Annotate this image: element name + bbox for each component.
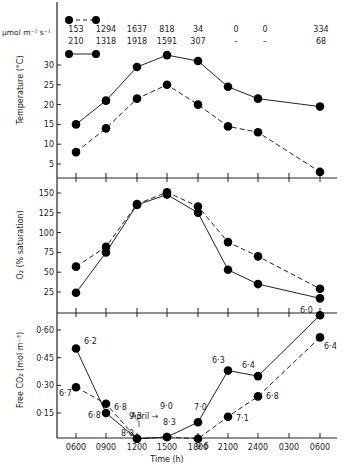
y-tick-label: 150 [39,189,54,198]
data-point [316,102,325,111]
data-point [194,57,203,66]
data-point [224,266,233,275]
irradiance-solid-value: 1318 [96,37,116,46]
data-point [102,409,111,418]
y-axis-title: O₂ (% saturation) [16,210,25,279]
ph-label: 6·4 [242,361,255,370]
irradiance-solid-value: 1918 [127,37,147,46]
data-point [163,188,172,197]
ph-label: 7·0 [194,403,207,412]
y-tick-label: 25 [44,81,54,90]
legend-marker [92,50,100,58]
chart-figure: 510152025302550751001251500·150·300·450·… [0,0,347,465]
ph-label: 8·3 [163,418,176,427]
irradiance-unit: µmol m⁻² s⁻¹ [2,28,51,37]
y-tick-label: 25 [44,288,54,297]
irradiance-solid-value: 307 [190,37,205,46]
x-axis-title: Time (h) [149,455,183,464]
y-axis-title: Temperature (°C) [16,55,25,125]
y-tick-label: 20 [44,101,54,110]
data-point [254,128,263,137]
y-tick-label: 5 [49,160,54,169]
y-tick-label: 125 [39,209,54,218]
y-tick-label: 0·45 [36,354,54,363]
y-tick-label: 100 [39,229,54,238]
legend-marker [92,16,100,24]
x-tick-label: 2400 [248,443,268,452]
data-point [224,122,233,131]
irradiance-solid-value: – [234,37,238,46]
x-tick-label: 2100 [218,443,238,452]
irradiance-dashed-value: 1637 [127,25,147,34]
dashed-series-line [76,85,320,172]
data-point [224,238,233,247]
x-tick-label: 0300 [279,443,299,452]
data-point [316,285,325,294]
data-point [194,202,203,211]
ph-label: 6·8 [88,411,101,420]
ph-label: 6·8 [266,392,279,401]
irradiance-dashed-value: 334 [313,25,328,34]
x-tick-label: 1500 [157,443,177,452]
data-point [133,63,142,72]
y-tick-label: 30 [44,61,54,70]
data-point [102,243,111,252]
y-tick-label: 50 [44,268,54,277]
y-tick-label: 10 [44,140,54,149]
ph-label: 6·4 [324,342,337,351]
irradiance-dashed-value: 818 [159,25,174,34]
data-point [133,200,142,209]
data-point [224,82,233,91]
data-point [316,311,325,320]
data-point [72,262,81,271]
y-tick-label: 15 [44,120,54,129]
irradiance-dashed-value: 0 [262,25,267,34]
irradiance-dashed-value: 153 [68,25,83,34]
data-point [254,280,263,289]
legend-marker [65,50,73,58]
ph-label: 8·0 [121,429,134,438]
irradiance-solid-value: 1591 [157,37,177,46]
y-axis-title: Free CO₂ (mol m⁻³) [16,332,25,408]
y-tick-label: 75 [44,248,54,257]
ph-label: 6·8 [114,403,127,412]
y-tick-label: 0·30 [36,381,54,390]
y-tick-label: 0·15 [36,409,54,418]
data-point [254,392,263,401]
data-point [133,94,142,103]
data-point [224,366,233,375]
data-point [254,372,263,381]
data-point [224,412,233,421]
data-point [194,418,203,427]
data-point [72,344,81,353]
data-point [102,399,111,408]
data-point [72,383,81,392]
data-point [102,96,111,105]
data-point [316,294,325,303]
irradiance-solid-value: – [263,37,267,46]
ph-label: 9·6 [196,442,209,451]
irradiance-dashed-value: 0 [233,25,238,34]
data-point [254,94,263,103]
irradiance-dashed-value: 34 [193,25,203,34]
ph-label: 6·3 [212,356,225,365]
ph-label: 7·1 [236,414,249,423]
irradiance-solid-value: 68 [316,37,326,46]
data-point [102,124,111,133]
data-point [72,120,81,129]
x-tick-label: 1200 [127,443,147,452]
y-tick-label: 0·60 [36,326,54,335]
solid-series-line [76,55,320,124]
data-point [163,433,172,442]
ph-label: 6·2 [84,337,97,346]
ph-label: 6·0 [300,306,313,315]
irradiance-dashed-value: 1294 [96,25,116,34]
x-tick-label: 0900 [96,443,116,452]
data-point [72,288,81,297]
april-annotation: April → [131,412,159,421]
data-point [163,81,172,90]
x-tick-label: 0600 [66,443,86,452]
data-point [163,51,172,60]
data-point [254,252,263,261]
legend-marker [65,16,73,24]
